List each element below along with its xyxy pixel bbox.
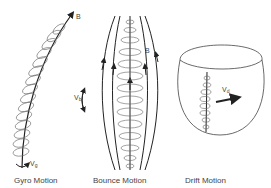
bounce-panel (82, 16, 158, 170)
drift-panel (178, 45, 264, 135)
gyro-field-label: B (76, 13, 81, 20)
gyro-helix (12, 22, 66, 157)
gyro-caption: Gyro Motion (14, 176, 58, 185)
field-line-b (22, 14, 72, 168)
diagram-canvas (0, 0, 271, 188)
drift-velocity-label: Vd (222, 86, 229, 94)
particle-motion-diagram: B Vg Gyro Motion B Vb Bounce Motion Vd D… (0, 0, 271, 188)
drift-arrow-icon (216, 98, 236, 102)
drift-caption: Drift Motion (185, 176, 226, 185)
bounce-field-label: B (145, 47, 150, 54)
drift-helix (200, 76, 211, 129)
bounce-velocity-label: Vb (74, 94, 81, 102)
gyro-velocity-label: Vg (30, 160, 37, 168)
gyro-panel (12, 14, 72, 168)
bounce-caption: Bounce Motion (93, 176, 146, 185)
